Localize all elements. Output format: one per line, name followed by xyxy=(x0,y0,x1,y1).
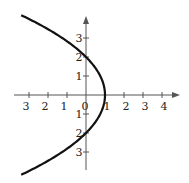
parabola-chart: 32101234321123 xyxy=(0,0,189,183)
y-tick-label: 1 xyxy=(76,108,83,121)
x-tick-label: 0 xyxy=(82,100,89,113)
y-tick-label: 3 xyxy=(76,146,83,159)
x-tick-label: 4 xyxy=(161,100,168,113)
x-tick-label: 2 xyxy=(123,100,130,113)
y-tick-label: 3 xyxy=(76,32,83,45)
x-tick-label: 3 xyxy=(142,100,149,113)
axes xyxy=(14,16,180,170)
x-axis-arrow-icon xyxy=(172,92,180,98)
y-tick-label: 2 xyxy=(76,51,83,64)
x-tick-label: 1 xyxy=(61,100,68,113)
y-axis-arrow-icon xyxy=(83,16,89,24)
y-tick-label: 2 xyxy=(76,127,83,140)
y-tick-label: 1 xyxy=(76,70,83,83)
x-tick-label: 3 xyxy=(23,100,30,113)
x-tick-label: 1 xyxy=(104,100,111,113)
x-tick-label: 2 xyxy=(42,100,49,113)
